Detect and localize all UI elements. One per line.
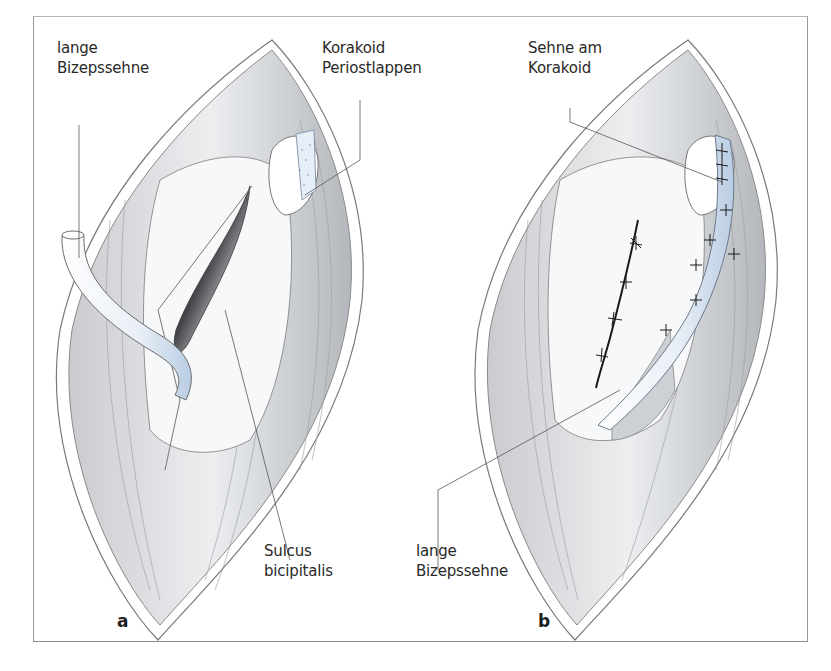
panel-letter-a: a [117,611,128,631]
label-line: Periostlappen [322,58,422,78]
label-line: lange [57,38,149,58]
label-line: Sehne am [528,38,602,58]
label-korakoid-periostlappen: Korakoid Periostlappen [322,38,422,78]
label-line: Korakoid [322,38,422,58]
label-sehne-am-korakoid: Sehne am Korakoid [528,38,602,78]
panel-letter-b: b [538,611,550,631]
label-line: Korakoid [528,58,602,78]
label-line: Bizepssehne [57,58,149,78]
label-lange-bizepssehne-b: lange Bizepssehne [416,541,508,581]
label-sulcus-bicipitalis: Sulcus bicipitalis [264,541,333,581]
label-line: bicipitalis [264,561,333,581]
label-line: lange [416,541,508,561]
label-line: Bizepssehne [416,561,508,581]
label-line: Sulcus [264,541,333,561]
label-lange-bizepssehne-a: lange Bizepssehne [57,38,149,78]
